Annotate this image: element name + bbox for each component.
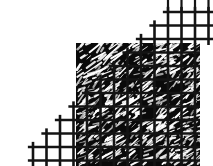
figure-container: FIG. 13 — [0, 0, 213, 166]
patent-drawing-canvas — [0, 0, 213, 166]
